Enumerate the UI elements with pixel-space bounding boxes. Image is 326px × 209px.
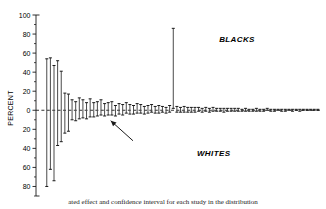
y-tick-label: 40 — [23, 69, 31, 76]
y-tick-label: 20 — [23, 88, 31, 95]
group-label-whites: WHITES — [197, 149, 231, 158]
arrow-annotation — [111, 121, 133, 141]
y-tick-label: 60 — [23, 164, 31, 171]
y-tick-label: 100 — [19, 12, 31, 19]
y-tick-label: 80 — [23, 31, 31, 38]
y-axis: 10080604020020406080 — [19, 12, 40, 196]
y-tick-label: 80 — [23, 183, 31, 190]
figure-caption: ated effect and confidence interval for … — [0, 198, 326, 206]
caterpillar-plot: 10080604020020406080 PERCENT BLACKS WHIT… — [0, 0, 326, 209]
y-tick-label: 0 — [27, 107, 31, 114]
y-tick-label: 60 — [23, 50, 31, 57]
figure-canvas: 10080604020020406080 PERCENT BLACKS WHIT… — [0, 0, 326, 209]
y-axis-tick-labels: 10080604020020406080 — [19, 12, 31, 190]
y-tick-label: 40 — [23, 145, 31, 152]
group-label-blacks: BLACKS — [219, 35, 255, 44]
y-axis-title: PERCENT — [7, 90, 14, 126]
y-tick-label: 20 — [23, 126, 31, 133]
error-bar-series — [45, 28, 319, 186]
